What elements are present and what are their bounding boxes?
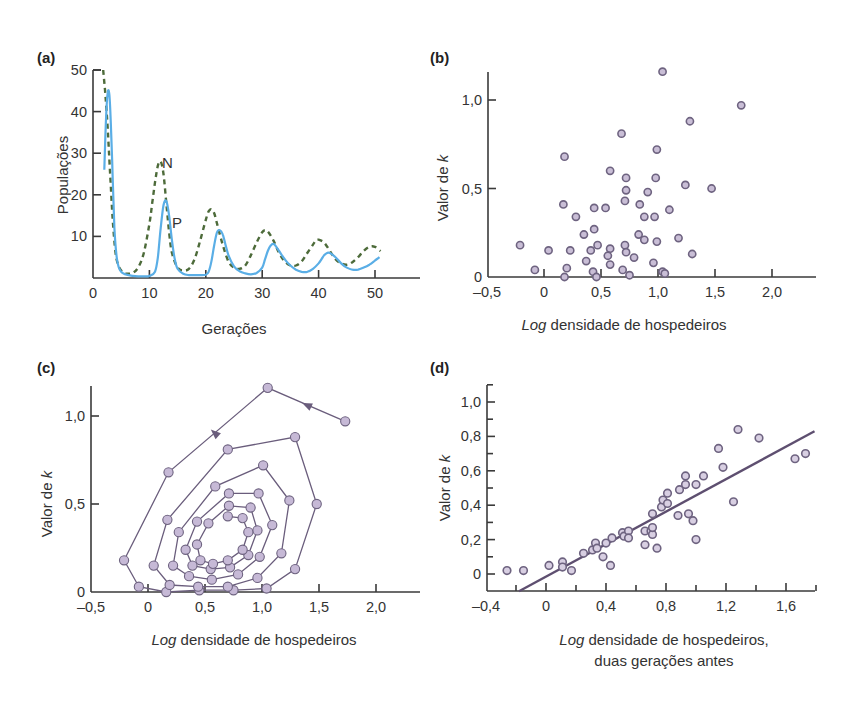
data-point bbox=[599, 553, 607, 561]
annotation-p: P bbox=[172, 214, 182, 231]
panel-c-k-vs-density-trajectory: (c) Valor de k Log densidade de hospedei… bbox=[37, 359, 420, 648]
x-tick-label: –0,5 bbox=[77, 599, 105, 615]
panel-b-k-vs-density-scatter: (b) Valor de k Log densidade de hospedei… bbox=[430, 49, 816, 333]
x-tick-label: 0,5 bbox=[195, 599, 215, 615]
y-tick-label: 0 bbox=[77, 584, 85, 600]
data-point bbox=[618, 130, 625, 137]
data-point bbox=[641, 236, 648, 243]
y-tick-label: 1,0 bbox=[65, 408, 85, 424]
trajectory-point bbox=[223, 582, 232, 591]
x-tick-label: 2,0 bbox=[762, 284, 782, 300]
trajectory-point bbox=[254, 489, 263, 498]
data-point bbox=[791, 455, 799, 463]
data-point bbox=[568, 567, 576, 575]
data-point bbox=[738, 102, 745, 109]
data-point bbox=[608, 534, 616, 542]
axes-d bbox=[487, 385, 815, 591]
trajectory-point bbox=[165, 580, 174, 589]
x-tick-label: 1,2 bbox=[716, 598, 736, 614]
y-axis-title-d-k: k bbox=[436, 453, 453, 462]
data-point bbox=[520, 567, 528, 575]
trajectory-point bbox=[149, 561, 158, 570]
data-point bbox=[734, 426, 742, 434]
data-point bbox=[666, 206, 673, 213]
data-point bbox=[644, 188, 651, 195]
x-axis-title-d-log: Log bbox=[559, 631, 585, 648]
ticks-a bbox=[93, 70, 375, 278]
data-point bbox=[730, 498, 738, 506]
trajectory-point bbox=[290, 565, 299, 574]
panel-label-c: (c) bbox=[37, 359, 55, 376]
y-tick-label: 0,5 bbox=[462, 181, 482, 197]
data-point bbox=[607, 261, 614, 268]
data-point bbox=[591, 204, 598, 211]
data-point bbox=[594, 242, 601, 249]
x-axis-title-c: Log densidade de hospedeiros bbox=[151, 631, 356, 648]
x-axis-title-d-line1: Log densidade de hospedeiros, bbox=[559, 631, 768, 648]
data-point bbox=[755, 434, 763, 442]
x-axis-title-c-log: Log bbox=[151, 631, 177, 648]
data-point bbox=[630, 254, 637, 261]
x-tick-label: 1,6 bbox=[776, 598, 796, 614]
data-point bbox=[604, 252, 611, 259]
panel-label-d: (d) bbox=[430, 359, 449, 376]
data-point bbox=[689, 517, 697, 525]
data-point bbox=[591, 226, 598, 233]
y-tick-label: 40 bbox=[71, 104, 87, 120]
data-point bbox=[545, 562, 553, 570]
data-point bbox=[622, 174, 629, 181]
trajectory-point bbox=[192, 517, 201, 526]
trajectory-point bbox=[277, 549, 286, 558]
trajectory-point bbox=[194, 582, 203, 591]
axes-a bbox=[93, 70, 420, 278]
y-tick-label: 0 bbox=[473, 566, 481, 582]
data-point bbox=[692, 481, 700, 489]
y-tick-label: 0,6 bbox=[461, 463, 481, 479]
data-point bbox=[587, 247, 594, 254]
data-point bbox=[563, 265, 570, 272]
trajectory-point bbox=[164, 468, 173, 477]
axes-c bbox=[91, 386, 420, 592]
data-point bbox=[719, 464, 727, 472]
x-tick-label: 0 bbox=[89, 285, 97, 301]
data-point bbox=[653, 146, 660, 153]
x-axis-title-d-line2: duas gerações antes bbox=[594, 652, 733, 669]
x-tick-label: 20 bbox=[198, 285, 214, 301]
figure-canvas: (a) Populações Gerações 0102030405010203… bbox=[0, 0, 851, 711]
trajectory-point bbox=[341, 417, 350, 426]
trajectory-point bbox=[312, 499, 321, 508]
trajectory-point bbox=[262, 584, 271, 593]
y-tick-label: 1,0 bbox=[461, 394, 481, 410]
data-point bbox=[641, 213, 648, 220]
data-point bbox=[649, 524, 657, 532]
x-tick-label: 40 bbox=[311, 285, 327, 301]
data-point bbox=[516, 242, 523, 249]
data-point bbox=[650, 259, 657, 266]
y-tick-label: 0 bbox=[474, 269, 482, 285]
data-point bbox=[545, 247, 552, 254]
trajectory-point bbox=[223, 556, 232, 565]
data-point bbox=[659, 68, 666, 75]
data-point bbox=[708, 185, 715, 192]
x-tick-label: 30 bbox=[254, 285, 270, 301]
data-point bbox=[675, 234, 682, 241]
trajectory-point bbox=[255, 552, 264, 561]
y-axis-title-c: Valor de k bbox=[38, 469, 55, 537]
x-tick-label: 10 bbox=[141, 285, 157, 301]
x-axis-title-d-rest: densidade de hospedeiros, bbox=[584, 631, 768, 648]
data-point bbox=[641, 541, 649, 549]
x-axis-title-c-rest: densidade de hospedeiros bbox=[176, 631, 356, 648]
trajectory-point bbox=[192, 540, 201, 549]
x-tick-label: 0,5 bbox=[591, 284, 611, 300]
data-point bbox=[559, 563, 567, 571]
y-axis-title-d-text: Valor de bbox=[436, 462, 453, 521]
x-tick-label: 0 bbox=[542, 598, 550, 614]
trajectory-point bbox=[238, 545, 247, 554]
y-tick-label: 0,5 bbox=[65, 496, 85, 512]
data-point bbox=[685, 510, 693, 518]
data-point bbox=[607, 562, 615, 570]
y-axis-title-b: Valor de k bbox=[434, 153, 451, 221]
trajectory-point bbox=[204, 519, 213, 528]
y-axis-title-b-text: Valor de bbox=[434, 162, 451, 221]
y-axis-title-c-k: k bbox=[38, 469, 55, 478]
